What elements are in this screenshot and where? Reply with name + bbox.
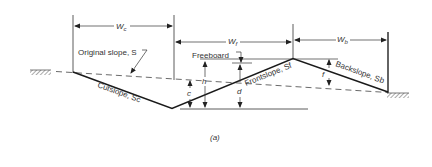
terrace-cross-section-diagram: Wc Wf Wb Original slope, S Freeboard h c… [0,0,432,167]
h-label: h [202,77,207,86]
wc-label: Wc [116,22,127,32]
figure-caption: (a) [210,133,220,142]
wb-label: Wb [337,35,349,45]
f-label: f [322,70,325,79]
freeboard-label: Freeboard [192,51,229,60]
ground-hatch-right-icon [387,93,409,98]
c-label: c [187,89,191,98]
wf-label: Wf [228,37,239,47]
frontslope-label: Frontslope, Sf [243,61,293,88]
d-label: d [237,87,242,96]
cutslope-label: Cutslope, Sc [96,80,142,104]
original-slope-label: Original slope, S [78,48,137,57]
freeboard-leader [236,52,241,62]
ground-hatch-left-icon [30,70,51,75]
